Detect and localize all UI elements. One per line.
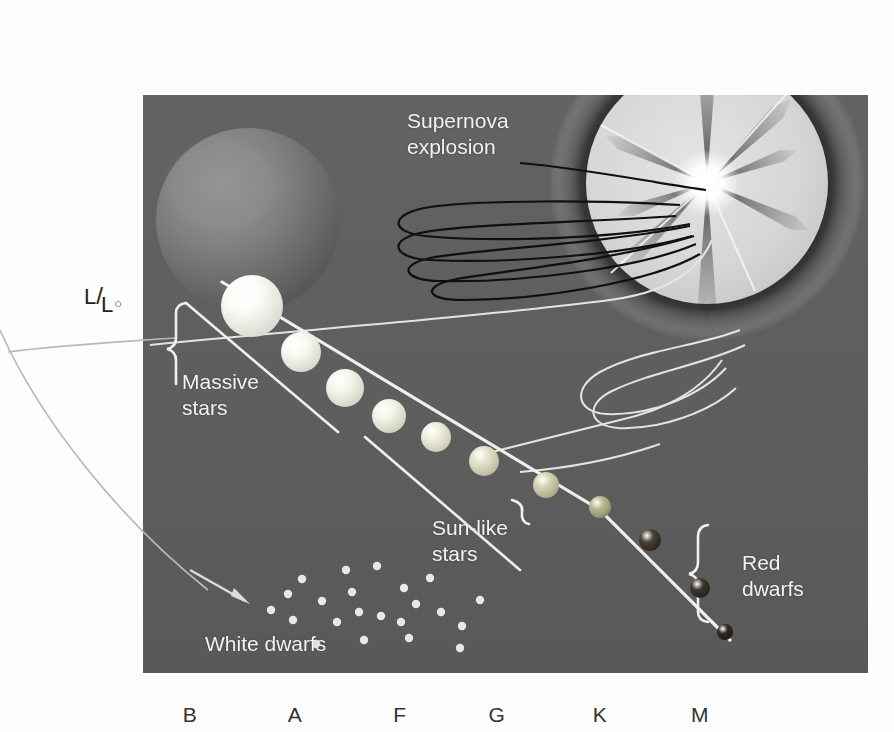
white-dwarf-dot xyxy=(284,590,292,598)
white-dwarf-dot xyxy=(298,575,306,583)
y-axis-numerator: L xyxy=(84,284,96,309)
white-dwarf-dot xyxy=(412,600,420,608)
sunlike-star-1 xyxy=(372,399,406,433)
y-axis-label: L/L○ xyxy=(84,282,123,310)
white-dwarf-dot xyxy=(267,606,275,614)
sunlike-star-5 xyxy=(589,496,611,518)
white-dwarf-dot xyxy=(397,618,405,626)
white-dwarf-dot xyxy=(355,608,363,616)
white-dwarf-dot xyxy=(333,618,341,626)
sunlike-star-4 xyxy=(533,472,559,498)
label-red-dwarfs: Red dwarfs xyxy=(742,550,804,602)
label-white-dwarfs: White dwarfs xyxy=(205,631,326,657)
sunlike-star-2 xyxy=(421,422,451,452)
x-axis-tick-m: M xyxy=(691,703,709,727)
white-dwarf-dot xyxy=(476,596,484,604)
x-axis-tick-b: B xyxy=(183,703,198,727)
x-axis-tick-g: G xyxy=(489,703,506,727)
red-dwarf-1 xyxy=(639,529,661,551)
white-dwarf-dot xyxy=(400,584,408,592)
solar-symbol-icon: ○ xyxy=(114,296,122,311)
massive-star-2 xyxy=(281,332,321,372)
x-axis-tick-a: A xyxy=(288,703,303,727)
figure-stage: L/L○ Supernova explosion Massive stars S… xyxy=(0,0,894,732)
red-dwarf-2 xyxy=(690,578,710,598)
white-dwarf-dot xyxy=(318,597,326,605)
white-dwarf-dot xyxy=(289,616,297,624)
white-dwarf-dot xyxy=(373,562,381,570)
label-sunlike-stars: Sun-like stars xyxy=(432,515,508,567)
x-axis-tick-k: K xyxy=(593,703,608,727)
white-dwarf-dot xyxy=(437,608,445,616)
massive-star-1 xyxy=(221,275,283,337)
sunlike-star-3 xyxy=(469,446,499,476)
label-supernova-explosion: Supernova explosion xyxy=(407,108,509,160)
white-dwarf-dot xyxy=(342,566,350,574)
white-dwarf-dot xyxy=(426,574,434,582)
x-axis-tick-f: F xyxy=(393,703,406,727)
white-dwarf-dot xyxy=(458,622,466,630)
red-dwarf-3 xyxy=(717,624,733,640)
white-dwarf-dot xyxy=(405,634,413,642)
white-dwarf-dot xyxy=(348,588,356,596)
white-dwarf-dot xyxy=(360,636,368,644)
massive-star-3 xyxy=(326,369,364,407)
label-massive-stars: Massive stars xyxy=(182,369,259,421)
y-axis-denominator: L xyxy=(101,292,113,317)
white-dwarf-dot xyxy=(456,644,464,652)
supernova-burst xyxy=(549,25,865,341)
white-dwarf-dot xyxy=(377,612,385,620)
